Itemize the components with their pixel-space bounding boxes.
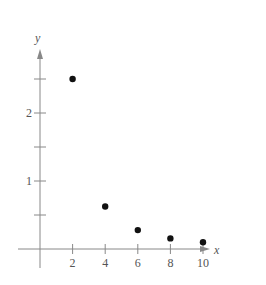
data-points (69, 76, 206, 246)
x-axis-label: x (213, 243, 220, 257)
scatter-chart: 24681012 x y (0, 0, 266, 285)
ticks: 24681012 (26, 79, 209, 270)
x-tick-label: 8 (167, 256, 173, 270)
data-point (102, 203, 108, 209)
data-point (200, 239, 206, 245)
x-tick-label: 2 (70, 256, 76, 270)
x-tick-label: 6 (135, 256, 141, 270)
data-point (167, 235, 173, 241)
x-axis-arrow-icon (200, 246, 210, 252)
x-tick-label: 4 (102, 256, 108, 270)
data-point (135, 227, 141, 233)
y-tick-label: 1 (26, 174, 32, 188)
x-tick-label: 10 (197, 256, 209, 270)
data-point (69, 76, 75, 82)
y-axis-arrow-icon (37, 49, 43, 59)
axes (18, 49, 210, 268)
y-axis-label: y (34, 31, 41, 45)
y-tick-label: 2 (26, 106, 32, 120)
